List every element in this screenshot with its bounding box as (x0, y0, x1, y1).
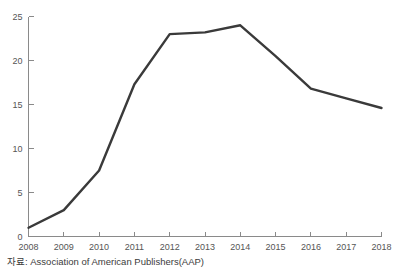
x-tick-label: 2017 (336, 242, 356, 251)
cropped-title-fragment (0, 0, 395, 9)
y-axis-tick-labels: 0510152025 (12, 12, 22, 242)
x-axis-tick-labels: 2008200920102011201220132014201520162017… (18, 242, 391, 251)
y-tick-label: 10 (12, 144, 22, 154)
y-tick-label: 0 (17, 232, 22, 242)
y-axis-ticks (29, 17, 34, 237)
x-axis: 2008200920102011201220132014201520162017… (18, 232, 391, 251)
y-tick-label: 15 (12, 100, 22, 110)
x-tick-label: 2016 (301, 242, 321, 251)
x-tick-label: 2008 (18, 242, 38, 251)
x-tick-label: 2011 (125, 242, 144, 251)
y-axis: 0510152025 (12, 12, 33, 242)
x-tick-label: 2009 (54, 242, 74, 251)
x-tick-label: 2010 (89, 242, 109, 251)
y-tick-label: 25 (12, 12, 22, 22)
x-tick-label: 2014 (230, 242, 250, 251)
line-chart-svg: 0510152025 20082009201020112012201320142… (0, 10, 395, 250)
y-tick-label: 5 (17, 188, 22, 198)
x-tick-label: 2013 (195, 242, 215, 251)
source-caption: 자료: Association of American Publishers(A… (7, 255, 204, 268)
data-series-group (29, 25, 382, 227)
plot-area: 0510152025 20082009201020112012201320142… (0, 10, 395, 250)
x-tick-label: 2012 (160, 242, 180, 251)
y-tick-label: 20 (12, 56, 22, 66)
x-axis-ticks (29, 232, 382, 237)
data-line-series-0 (29, 25, 382, 227)
x-tick-label: 2018 (371, 242, 391, 251)
x-tick-label: 2015 (266, 242, 286, 251)
chart-figure: 0510152025 20082009201020112012201320142… (0, 0, 395, 277)
